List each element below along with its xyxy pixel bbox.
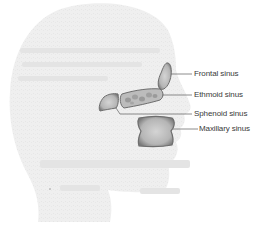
frontal-sinus-label: Frontal sinus: [194, 69, 239, 78]
maxillary-sinus-label: Maxillary sinus: [199, 124, 250, 133]
sinus-diagram: Frontal sinus Ethmoid sinus Sphenoid sin…: [0, 0, 258, 229]
ethmoid-sinus-label: Ethmoid sinus: [194, 90, 243, 99]
maxillary-sinus-shape: [138, 117, 174, 147]
dot-artifact: [49, 188, 50, 189]
sphenoid-sinus-label: Sphenoid sinus: [194, 109, 247, 118]
